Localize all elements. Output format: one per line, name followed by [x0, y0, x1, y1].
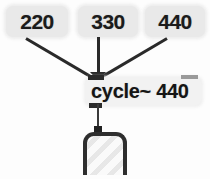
object-box-cycle[interactable]: cycle~ 440	[86, 78, 201, 105]
patch-canvas[interactable]: 220 330 440 cycle~ 440	[0, 0, 210, 179]
patch-cord-220-to-cycle[interactable]	[25, 37, 97, 81]
message-box-220[interactable]: 220	[6, 6, 68, 37]
outlet-signal[interactable]	[89, 103, 102, 108]
message-box-330[interactable]: 330	[78, 6, 138, 37]
message-box-220-label: 220	[20, 11, 54, 32]
speaker-object-icon[interactable]	[83, 132, 127, 175]
object-box-label: cycle~ 440	[91, 80, 189, 103]
patch-cord-440-to-cycle[interactable]	[96, 37, 168, 81]
message-box-330-label: 330	[91, 11, 125, 32]
patch-cord-cycle-to-dac[interactable]	[97, 104, 99, 128]
inlet-phase[interactable]	[181, 75, 198, 79]
message-box-440-label: 440	[158, 11, 192, 32]
message-box-440[interactable]: 440	[145, 6, 205, 37]
